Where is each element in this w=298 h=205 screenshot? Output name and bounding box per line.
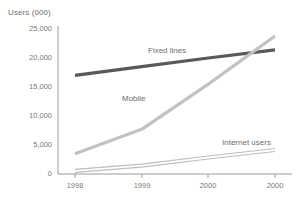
chart-container: Users (000) 25,000 20,000 15,000 10,000 …	[0, 0, 298, 205]
x-tick-label: 2000	[200, 182, 217, 190]
series-label-internet-users: Internet users	[222, 139, 271, 147]
series-label-fixed-lines: Fixed lines	[148, 47, 186, 55]
x-tick-label: 1998	[67, 182, 84, 190]
series-line-internet-users-lower	[75, 151, 275, 172]
series-line-internet-users	[75, 148, 275, 169]
series-label-mobile: Mobile	[122, 95, 146, 103]
series-layer	[75, 36, 275, 172]
x-tick-label: 1999	[134, 182, 151, 190]
plot-area	[0, 0, 298, 205]
x-tick-label: 2000	[267, 182, 284, 190]
